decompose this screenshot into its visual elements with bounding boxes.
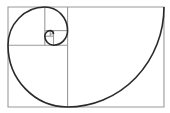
golden-spiral-diagram	[0, 0, 170, 113]
golden-rectangle-grid	[8, 7, 164, 107]
golden-spiral-curve	[8, 7, 164, 107]
